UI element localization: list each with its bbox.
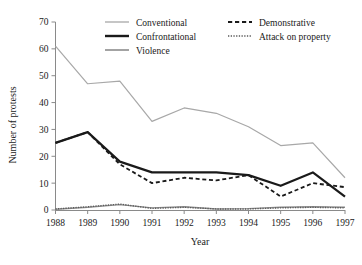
y-tick-label: 20 (39, 152, 49, 162)
y-tick-label: 50 (39, 71, 49, 81)
x-tick-label: 1990 (110, 218, 129, 228)
y-tick-label: 40 (39, 98, 49, 108)
y-tick-label: 70 (39, 17, 49, 27)
x-tick-label: 1992 (175, 218, 194, 228)
y-tick-label: 60 (39, 44, 49, 54)
legend-label-attack-on-property: Attack on property (259, 32, 331, 42)
legend-label-violence: Violence (136, 46, 170, 56)
x-tick-label: 1995 (271, 218, 290, 228)
chart-canvas: 010203040506070 198819891990199119921993… (0, 0, 362, 265)
x-tick-label: 1993 (207, 218, 226, 228)
legend-label-conventional: Conventional (136, 18, 188, 28)
y-tick-label: 10 (39, 179, 49, 189)
y-tick-label: 0 (44, 205, 49, 215)
protest-line-chart: 010203040506070 198819891990199119921993… (0, 0, 362, 265)
x-tick-label: 1991 (143, 218, 162, 228)
x-tick-label: 1996 (303, 218, 322, 228)
legend-label-demonstrative: Demonstrative (259, 18, 315, 28)
y-axis-title: Number of protests (7, 86, 18, 163)
x-axis-title: Year (191, 236, 210, 247)
x-tick-label: 1997 (336, 218, 355, 228)
x-tick-label: 1994 (239, 218, 258, 228)
x-tick-label: 1989 (78, 218, 97, 228)
x-tick-label: 1988 (46, 218, 65, 228)
legend-label-confrontational: Confrontational (136, 32, 197, 42)
y-tick-label: 30 (39, 125, 49, 135)
